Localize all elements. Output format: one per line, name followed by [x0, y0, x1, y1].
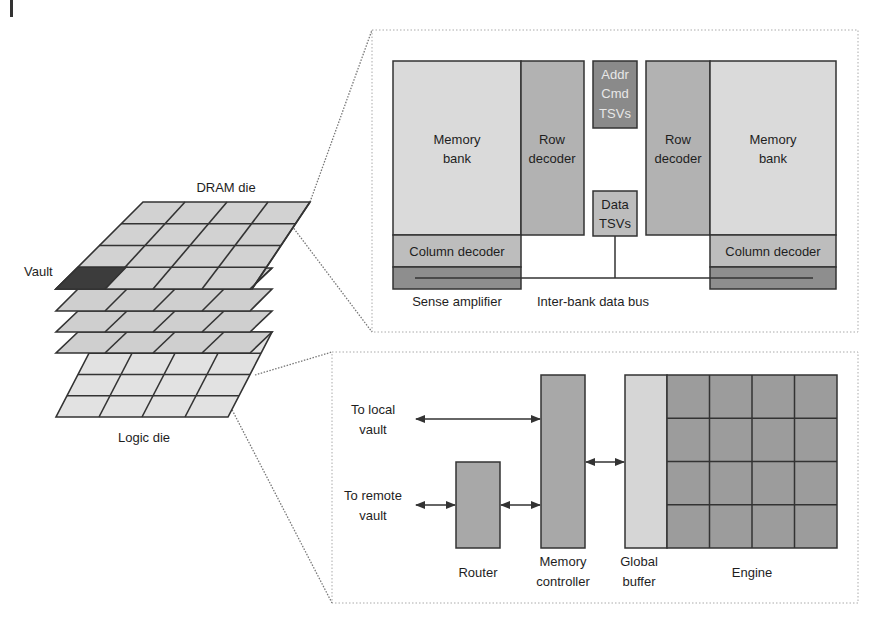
to-remote-vault-label-2: vault [359, 508, 387, 523]
memory-controller-label-2: controller [536, 574, 590, 589]
die-stack [56, 202, 310, 417]
router-label: Router [458, 565, 498, 580]
right-memory-bank-label-2: bank [759, 151, 788, 166]
global-buffer-block [625, 375, 667, 548]
addr-tsv-label-2: Cmd [601, 86, 628, 101]
corner-mark [10, 0, 13, 17]
engine-label: Engine [732, 565, 772, 580]
data-tsv-label-1: Data [601, 197, 629, 212]
dram-layer-1-top [56, 202, 310, 289]
right-row-decoder-label-1: Row [665, 132, 692, 147]
left-row-decoder [521, 61, 584, 235]
addr-tsv-label-1: Addr [601, 67, 629, 82]
global-buffer-label-1: Global [620, 554, 658, 569]
dram-detail-panel: Memory bank Row decoder Column decoder A… [372, 30, 858, 332]
left-memory-bank-label-1: Memory [434, 132, 481, 147]
logic-die-label: Logic die [118, 430, 170, 445]
memory-controller-label-1: Memory [540, 554, 587, 569]
addr-tsv-label-3: TSVs [599, 106, 631, 121]
left-memory-bank [393, 61, 521, 235]
right-memory-bank-label-1: Memory [750, 132, 797, 147]
right-row-decoder-label-2: decoder [655, 151, 703, 166]
right-row-decoder [646, 61, 710, 235]
to-local-vault-label-1: To local [351, 402, 395, 417]
inter-bank-bus-label: Inter-bank data bus [537, 294, 650, 309]
hmc-architecture-diagram: Memory bank Row decoder Column decoder A… [0, 0, 889, 631]
dram-layer-3 [56, 289, 272, 311]
data-tsv-label-2: TSVs [599, 216, 631, 231]
to-local-vault-label-2: vault [359, 422, 387, 437]
dram-layer-5 [56, 332, 272, 353]
memory-controller-block [541, 375, 585, 548]
left-column-decoder-label: Column decoder [409, 244, 505, 259]
left-row-decoder-label-1: Row [539, 132, 566, 147]
sense-amplifier-label: Sense amplifier [412, 294, 502, 309]
left-row-decoder-label-2: decoder [529, 151, 577, 166]
logic-detail-panel: To local vault To remote vault Router Me… [332, 352, 858, 603]
left-memory-bank-label-2: bank [443, 151, 472, 166]
dram-layer-4 [56, 311, 272, 332]
to-remote-vault-label-1: To remote [344, 488, 402, 503]
engine-grid [667, 375, 837, 548]
vault-label: Vault [24, 264, 53, 279]
dram-die-label: DRAM die [196, 180, 255, 195]
global-buffer-label-2: buffer [622, 574, 656, 589]
right-column-decoder-label: Column decoder [725, 244, 821, 259]
router-block [456, 462, 500, 548]
right-memory-bank [710, 61, 836, 235]
